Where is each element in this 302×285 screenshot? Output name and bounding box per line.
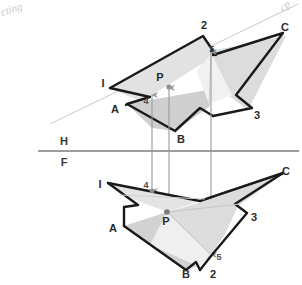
top-label-3: 3 <box>254 109 260 121</box>
top-label-C: C <box>281 21 289 33</box>
front-label-I: I <box>98 178 101 190</box>
top-label-I: I <box>101 77 104 89</box>
top-label-P: P <box>156 71 163 83</box>
front-label-P: P <box>162 215 169 227</box>
front-label-5: 5 <box>216 252 221 262</box>
top-label-2: 2 <box>201 19 207 31</box>
front-label-4: 4 <box>143 180 148 190</box>
f-label: F <box>61 156 68 168</box>
front-view-point-4-marker <box>150 189 155 194</box>
front-label-B: B <box>182 268 190 280</box>
front-label-C: C <box>282 165 290 177</box>
top-label-A: A <box>111 103 119 115</box>
technical-drawing-canvas: H F <box>0 0 302 285</box>
front-label-3: 3 <box>251 211 257 223</box>
front-label-A: A <box>109 222 117 234</box>
top-label-4: 4 <box>143 96 148 106</box>
h-label: H <box>60 135 68 147</box>
top-label-5: 5 <box>209 44 214 54</box>
top-label-B: B <box>177 133 185 145</box>
front-label-2: 2 <box>210 268 216 280</box>
drawing-sheet: H F <box>0 0 302 285</box>
